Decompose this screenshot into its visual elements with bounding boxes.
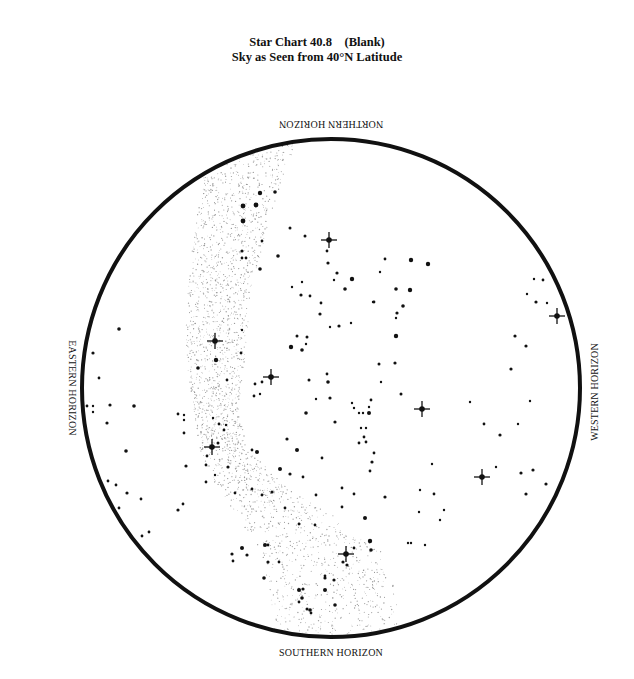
star [393,361,396,364]
star [182,503,185,506]
star [358,442,361,445]
star [92,405,94,407]
star [241,329,243,331]
bright-star-icon [549,308,565,324]
star [298,601,301,604]
star [378,363,381,366]
star [140,498,143,501]
star [343,287,347,291]
star [105,421,108,424]
star [278,561,281,564]
star [353,407,355,409]
star [230,552,233,555]
star [255,450,259,454]
star [214,474,216,476]
star [108,403,111,406]
star [177,413,180,416]
star [241,204,246,209]
star [433,493,436,496]
star [176,508,179,511]
star [483,423,486,426]
star [380,381,382,383]
star [321,457,324,460]
star [529,400,531,402]
star [395,317,397,319]
star [326,373,329,376]
eastern-horizon-label: EASTERN HORIZON [67,340,78,436]
star [531,468,534,471]
star [300,348,304,352]
star-chart [0,0,634,679]
star [533,278,535,280]
star [365,427,367,429]
star [306,336,309,339]
star [439,519,441,521]
star [261,381,264,384]
star [278,467,282,471]
star [345,563,348,566]
star [320,302,323,305]
star [285,437,288,440]
star [353,493,356,496]
star [443,509,445,511]
star [383,495,386,498]
star [333,603,337,607]
star [335,271,338,274]
star [544,482,547,485]
star [328,396,331,399]
star [107,480,110,483]
star [289,345,293,349]
star [302,476,305,479]
star [358,412,360,414]
star [534,300,537,303]
star [384,258,387,261]
horizon-circle [82,139,580,637]
star [368,539,372,543]
star [362,412,364,414]
star [251,449,254,452]
star [305,343,307,345]
star [183,419,185,421]
bright-star-icon [474,469,490,485]
star [408,288,412,292]
star [519,471,522,474]
star [296,335,299,338]
star [370,399,373,402]
star [258,267,262,271]
star [232,560,235,563]
star [98,377,101,380]
star [115,484,118,487]
star [318,312,321,315]
milky-way-band [186,135,399,641]
star [196,366,200,370]
star [295,448,299,452]
star [526,293,528,295]
star [183,432,186,435]
star [324,575,327,578]
star [424,544,426,546]
star [546,302,548,304]
star [288,472,291,475]
star [329,326,331,328]
star [205,464,208,467]
star [253,395,256,398]
star [509,367,512,370]
star [326,261,329,264]
star [125,491,128,494]
star [341,506,344,509]
star [184,464,187,467]
star [333,279,335,281]
star [92,411,94,413]
star [251,488,254,491]
star [118,507,121,510]
star [426,262,430,266]
bright-star-icon [338,546,354,562]
star [469,401,471,403]
star [431,463,433,465]
star [297,588,301,592]
star [379,271,381,273]
star [495,466,497,468]
star [91,351,94,354]
star [350,277,354,281]
star [400,393,403,396]
